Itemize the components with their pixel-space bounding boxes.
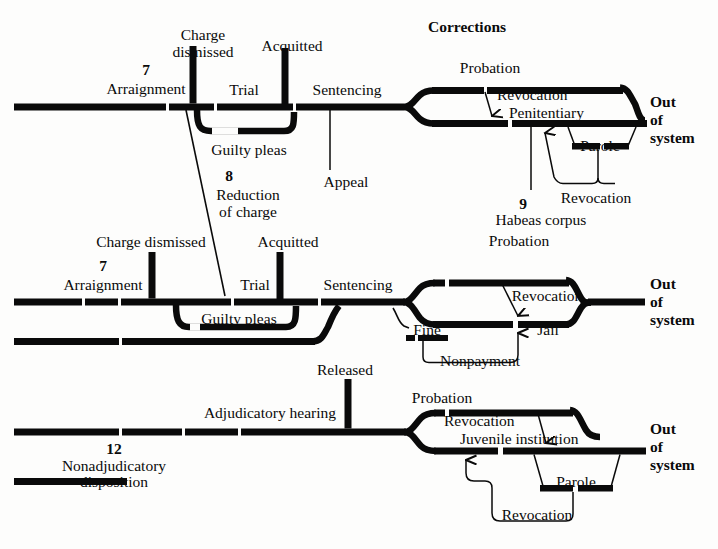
out-label-b1: Out bbox=[650, 276, 676, 292]
probation-rejoin-a bbox=[620, 88, 645, 121]
guilty-pleas-label-a: Guilty pleas bbox=[211, 142, 286, 158]
juv-fork-up bbox=[404, 413, 436, 432]
out-label-c3: system bbox=[650, 457, 695, 473]
sentencing-label-a: Sentencing bbox=[313, 82, 382, 98]
felony-fork-down bbox=[404, 107, 434, 124]
parole-label-c: Parole bbox=[556, 474, 596, 490]
number-7-felony: 7 bbox=[142, 62, 150, 78]
arraignment-label-b: Arraignment bbox=[63, 277, 142, 293]
probation-bar-b1 bbox=[433, 280, 445, 287]
jail-label: Jail bbox=[537, 322, 559, 338]
fine-branch-line bbox=[393, 308, 409, 328]
out-label-a1: Out bbox=[650, 94, 676, 110]
juvenile-inst-bar-c1 bbox=[434, 448, 498, 455]
juv-spine-seg3 bbox=[185, 429, 238, 436]
released-label: Released bbox=[317, 362, 373, 378]
out-label-b3: system bbox=[650, 312, 695, 328]
parole-down-c bbox=[534, 455, 543, 487]
parole-label-a: Parole bbox=[580, 138, 620, 154]
number-7-misdemeanor: 7 bbox=[99, 258, 107, 274]
charge-dismissed-label-b: Charge dismissed bbox=[96, 234, 206, 250]
number-12: 12 bbox=[106, 441, 122, 457]
nonadjudicatory-label-line2: disposition bbox=[80, 474, 148, 490]
number-8: 8 bbox=[225, 168, 233, 184]
parole-up-a bbox=[628, 127, 636, 146]
reduction-of-charge-line1: Reduction bbox=[216, 187, 280, 203]
out-label-c1: Out bbox=[650, 421, 676, 437]
misd-spine-seg3 bbox=[121, 299, 231, 306]
nonpayment-label: Nonpayment bbox=[440, 353, 520, 369]
guilty-pleas-gap-b bbox=[190, 324, 200, 331]
nonadjudicatory-label-line1: Nonadjudicatory bbox=[62, 458, 166, 474]
jail-rejoin-b bbox=[566, 303, 591, 325]
habeas-corpus-label: Habeas corpus bbox=[496, 212, 587, 228]
juv-spine-seg4 bbox=[241, 429, 406, 436]
number-9: 9 bbox=[519, 196, 527, 212]
misd-lower-rejoin bbox=[312, 306, 339, 342]
misd-fork-up bbox=[403, 283, 435, 302]
penitentiary-bar-a1 bbox=[432, 120, 508, 127]
adjudicatory-hearing-label: Adjudicatory hearing bbox=[204, 405, 336, 421]
trial-label-a: Trial bbox=[229, 82, 259, 98]
guilty-pleas-gap bbox=[212, 128, 238, 135]
out-label-b2: of bbox=[650, 294, 663, 310]
trial-label-b: Trial bbox=[240, 277, 270, 293]
misd-lower-seg1 bbox=[14, 338, 119, 345]
reduction-of-charge-line2: of charge bbox=[219, 204, 277, 220]
parole-revocation-loop-right bbox=[598, 150, 615, 184]
penitentiary-label: Penitentiary bbox=[509, 105, 584, 121]
misd-spine-seg5 bbox=[321, 299, 405, 306]
probation-bar-a1 bbox=[432, 87, 484, 94]
misd-out-bar bbox=[588, 299, 645, 306]
misdemeanor-row-lines bbox=[14, 252, 645, 363]
felony-spine-seg1 bbox=[14, 104, 166, 111]
acquitted-label-a: Acquitted bbox=[261, 38, 322, 54]
criminal-justice-flowchart: Corrections Charge dismissed Acquitted 7… bbox=[0, 0, 718, 549]
revocation-label-a: Revocation bbox=[497, 87, 568, 103]
juvenile-inst-bar-c2 bbox=[503, 448, 646, 455]
charge-dismissed-label-line1: Charge bbox=[181, 27, 225, 43]
juv-fork-down bbox=[404, 432, 436, 451]
out-label-a2: of bbox=[650, 112, 663, 128]
revocation-arrow-a bbox=[485, 92, 492, 116]
corrections-title: Corrections bbox=[428, 19, 506, 35]
juv-spine-seg2 bbox=[122, 429, 182, 436]
juv-spine-seg1 bbox=[14, 429, 119, 436]
probation-label-a: Probation bbox=[460, 60, 520, 76]
charge-dismissed-label-line2: dismissed bbox=[172, 44, 233, 60]
revocation-label-c2: Revocation bbox=[502, 507, 573, 523]
guilty-pleas-label-b: Guilty pleas bbox=[201, 311, 276, 327]
revocation-label-b: Revocation bbox=[512, 288, 583, 304]
probation-label-b: Probation bbox=[489, 233, 549, 249]
arraignment-label-a: Arraignment bbox=[106, 81, 185, 97]
misd-lower-seg2 bbox=[122, 338, 315, 345]
probation-label-c: Probation bbox=[412, 390, 472, 406]
probation-bar-b2 bbox=[449, 280, 569, 287]
fine-label: Fine bbox=[413, 322, 441, 338]
revocation-label-c: Revocation bbox=[444, 413, 515, 429]
guilty-pleas-loop bbox=[197, 110, 294, 131]
revocation-label-a2: Revocation bbox=[561, 190, 632, 206]
appeal-label: Appeal bbox=[324, 174, 369, 190]
misd-spine-seg4 bbox=[234, 299, 318, 306]
out-label-c2: of bbox=[650, 439, 663, 455]
jail-bar-b1 bbox=[433, 321, 513, 328]
parole-up-c bbox=[611, 455, 620, 488]
felony-spine-seg2 bbox=[169, 104, 214, 111]
juvenile-institution-label: Juvenile institution bbox=[460, 431, 578, 447]
misd-spine-seg2 bbox=[85, 299, 118, 306]
acquitted-label-b: Acquitted bbox=[257, 234, 318, 250]
felony-spine-seg4 bbox=[296, 104, 404, 111]
out-label-a3: system bbox=[650, 130, 695, 146]
misd-spine-seg1 bbox=[14, 299, 82, 306]
sentencing-label-b: Sentencing bbox=[324, 277, 393, 293]
